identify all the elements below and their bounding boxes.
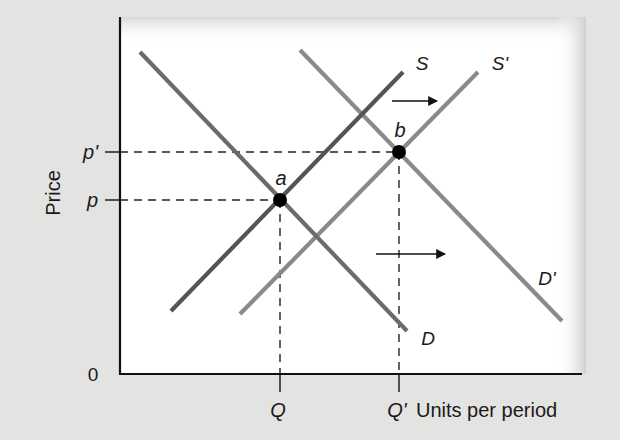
chart-canvas: S'D'DSabp'pQQ'0Units per periodPrice: [0, 0, 620, 440]
point-label-a: a: [275, 167, 286, 189]
curve-label-d: D: [421, 328, 435, 349]
equilibrium-point-b: [392, 145, 406, 159]
supply-demand-chart: S'D'DSabp'pQQ'0Units per periodPrice: [0, 0, 620, 440]
point-label-b: b: [394, 119, 405, 141]
x-tick-label-0: Q: [270, 399, 286, 421]
y-tick-label-1: p: [86, 189, 98, 211]
curve-label-d-prime: D': [538, 268, 557, 289]
x-axis-title: Units per period: [416, 399, 557, 421]
x-tick-label-1: Q': [387, 399, 408, 421]
origin-label: 0: [88, 364, 99, 385]
y-tick-label-0: p': [82, 141, 99, 163]
curve-label-s-prime: S': [492, 53, 510, 74]
plot-panel: [120, 17, 586, 374]
y-axis-title: Price: [42, 170, 64, 216]
equilibrium-point-a: [273, 193, 287, 207]
curve-label-s: S: [416, 53, 429, 74]
